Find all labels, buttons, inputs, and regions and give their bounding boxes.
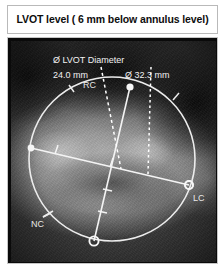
figure-caption-text: LVOT level ( 6 mm below annulus level) [12, 13, 212, 25]
figure-caption: LVOT level ( 6 mm below annulus level) [7, 5, 218, 34]
cusp-label-lc: LC [193, 193, 205, 203]
ct-scan-image: Ø LVOT Diameter 24.0 mm Ø 32.3 mm RC LC … [11, 41, 216, 262]
measurement-overlay: Ø LVOT Diameter 24.0 mm Ø 32.3 mm RC LC … [11, 41, 216, 262]
measure-label-text: Ø LVOT Diameter [53, 55, 124, 65]
leader-line-min-diameter [101, 67, 121, 169]
figure-panel: LVOT level ( 6 mm below annulus level) [0, 0, 224, 273]
cusp-label-nc: NC [31, 219, 44, 229]
min-diameter-measure-line [89, 83, 133, 245]
max-diameter-value-text: Ø 32.3 mm [125, 70, 170, 80]
leader-line-max-diameter [148, 67, 151, 174]
cusp-label-rc: RC [83, 80, 96, 90]
min-diameter-value-text: 24.0 mm [53, 70, 88, 80]
perimeter-tick-marks [43, 85, 179, 217]
max-diameter-measure-line [28, 145, 193, 189]
ct-scan-frame: Ø LVOT Diameter 24.0 mm Ø 32.3 mm RC LC … [7, 37, 218, 264]
